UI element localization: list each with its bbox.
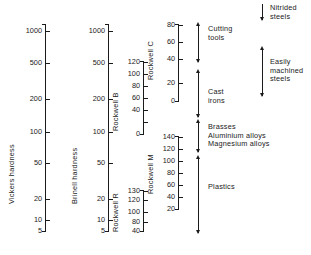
range-bar xyxy=(198,25,199,62)
axis-tick-label: 120 xyxy=(163,145,175,152)
axis-tick-label: 80 xyxy=(167,169,175,176)
axis-tick xyxy=(144,98,148,99)
axis-cap-bottom xyxy=(175,209,179,210)
material-range-column-right xyxy=(262,0,263,255)
axis-tick xyxy=(179,185,183,186)
axis-tick-label: 50 xyxy=(97,159,105,166)
arrow-down-icon xyxy=(196,149,200,153)
axis-tick-label: 10 xyxy=(34,216,42,223)
axis-tick-label: 120 xyxy=(128,58,140,65)
label-line: steels xyxy=(270,13,297,22)
axis-tick xyxy=(179,137,183,138)
axis-tick xyxy=(46,132,50,133)
arrow-up-icon xyxy=(196,155,200,159)
axis-cap-bottom xyxy=(140,231,144,232)
axis-tick-label: 100 xyxy=(128,208,140,215)
axis-tick xyxy=(144,110,148,111)
range-bar xyxy=(198,122,199,152)
range-label-nitrided-steels: Nitrided steels xyxy=(270,4,297,21)
arrow-down-icon xyxy=(196,114,200,118)
hardness-scale-comparison-chart: 1000 500 200 100 50 20 10 5 Vickers hard… xyxy=(0,0,311,255)
axis-tick-label: 100 xyxy=(163,157,175,164)
axis-tick-label: 0 xyxy=(136,130,140,137)
axis-tick-label: 60 xyxy=(132,94,140,101)
axis-tick xyxy=(179,161,183,162)
axis-tick-label: 200 xyxy=(93,95,105,102)
axis-tick-label: 20 xyxy=(167,79,175,86)
axis-tick-label: 5 xyxy=(101,227,105,234)
axis-tick xyxy=(144,200,148,201)
range-label-cutting-tools: Cutting tools xyxy=(208,25,233,42)
axis-tick-label: 50 xyxy=(34,159,42,166)
axis-tick xyxy=(179,83,183,84)
axis-tick-label: 40 xyxy=(132,227,140,234)
axis-tick xyxy=(179,42,183,43)
arrow-up-icon xyxy=(260,46,264,50)
axis-title: Rockwell B xyxy=(112,92,119,131)
axis-tick-label: 60 xyxy=(167,38,175,45)
axis-tick-label: 60 xyxy=(167,181,175,188)
material-range-column xyxy=(198,0,199,255)
axis-tick-label: 100 xyxy=(128,70,140,77)
label-line: tools xyxy=(208,34,233,43)
axis-line xyxy=(143,190,144,232)
axis-tick-label: 100 xyxy=(93,128,105,135)
axis-tick-label: 40 xyxy=(132,106,140,113)
arrow-up-icon xyxy=(196,119,200,123)
arrow-down-icon xyxy=(260,93,264,97)
axis-tick-label: 20 xyxy=(97,195,105,202)
axis-tick-label: 80 xyxy=(132,82,140,89)
axis-tick xyxy=(46,99,50,100)
axis-tick-label: 5 xyxy=(38,227,42,234)
axis-tick-label: 80 xyxy=(167,21,175,28)
axis-title: Vickers hardness xyxy=(8,144,15,204)
label-line: Magnesium alloys xyxy=(208,140,270,149)
axis-tick xyxy=(46,199,50,200)
axis-tick-label: 200 xyxy=(30,95,42,102)
axis-tick-label: 0 xyxy=(171,97,175,104)
axis-tick xyxy=(46,163,50,164)
axis-tick xyxy=(109,132,113,133)
range-bar xyxy=(198,72,199,117)
axis-cap-bottom xyxy=(42,231,46,232)
label-line: steels xyxy=(270,75,303,84)
axis-tick xyxy=(109,63,113,64)
axis-tick-label: 20 xyxy=(167,205,175,212)
axis-tick xyxy=(179,173,183,174)
axis-tick-label: 120 xyxy=(128,196,140,203)
axis-line xyxy=(108,24,109,232)
arrow-up-icon xyxy=(196,69,200,73)
axis-tick xyxy=(179,25,183,26)
axis-tick xyxy=(46,31,50,32)
axis-title: Rockwell M xyxy=(147,154,154,194)
axis-title: Rockwell C xyxy=(147,41,154,80)
axis-tick xyxy=(144,222,148,223)
label-line: irons xyxy=(208,97,225,106)
axis-tick-label: 1000 xyxy=(89,27,105,34)
arrow-down-icon xyxy=(196,59,200,63)
axis-title: Rockwell R xyxy=(112,193,119,232)
axis-tick-label: 40 xyxy=(167,193,175,200)
axis-tick xyxy=(179,197,183,198)
axis-tick xyxy=(179,59,183,60)
axis-tick-label: 500 xyxy=(93,59,105,66)
axis-tick-label: 20 xyxy=(34,195,42,202)
axis-tick xyxy=(144,212,148,213)
range-bar xyxy=(262,49,263,96)
range-label-brasses-aluminium-magnesium: Brasses Aluminium alloys Magnesium alloy… xyxy=(208,123,270,149)
axis-tick xyxy=(179,149,183,150)
axis-cap-top xyxy=(105,24,109,25)
axis-cap-bottom xyxy=(140,134,144,135)
axis-tick xyxy=(109,31,113,32)
axis-tick-label: 80 xyxy=(132,218,140,225)
axis-cap-bottom xyxy=(175,101,179,102)
axis-title: Brinell hardness xyxy=(71,148,78,204)
range-bar xyxy=(198,158,199,233)
axis-line xyxy=(178,24,179,102)
range-label-easily-machined-steels: Easily machined steels xyxy=(270,58,303,84)
axis-tick-label: 10 xyxy=(97,216,105,223)
label-line: Plastics xyxy=(208,183,235,192)
axis-tick xyxy=(144,122,148,123)
axis-tick-label: 40 xyxy=(167,55,175,62)
axis-tick xyxy=(46,63,50,64)
